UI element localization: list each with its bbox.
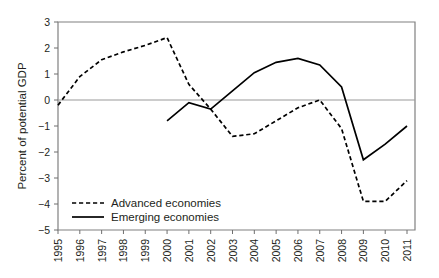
- series-group: [58, 38, 407, 202]
- x-axis-ticks: 1995199619971998199920002001200220032004…: [52, 230, 413, 262]
- y-tick-label: 0: [44, 94, 50, 106]
- x-tick-label: 2010: [379, 239, 391, 263]
- x-tick-label: 2005: [270, 239, 282, 263]
- x-tick-label: 2001: [183, 239, 195, 263]
- x-tick-label: 1999: [139, 239, 151, 263]
- chart-figure: Percent of potential GDP 3210−1−2−3−4−5 …: [0, 0, 439, 278]
- series-line-emerging: [167, 58, 407, 159]
- x-tick-label: 2004: [248, 239, 260, 263]
- x-tick-label: 1998: [117, 239, 129, 263]
- y-axis-title: Percent of potential GDP: [16, 62, 28, 190]
- y-tick-label: −5: [38, 224, 50, 236]
- y-tick-label: −1: [38, 120, 50, 132]
- x-tick-label: 1995: [52, 239, 64, 263]
- series-line-advanced: [58, 38, 407, 202]
- y-tick-label: 1: [44, 68, 50, 80]
- y-tick-label: 3: [44, 16, 50, 28]
- chart-legend: Advanced economies Emerging economies: [72, 197, 221, 223]
- x-tick-label: 2000: [161, 239, 173, 263]
- x-tick-label: 2008: [336, 239, 348, 263]
- y-tick-label: −3: [38, 172, 50, 184]
- x-tick-label: 2003: [227, 239, 239, 263]
- y-axis-ticks: 3210−1−2−3−4−5: [38, 16, 58, 236]
- y-tick-label: 2: [44, 42, 50, 54]
- x-tick-label: 2011: [401, 239, 413, 262]
- y-tick-label: −2: [38, 146, 50, 158]
- x-tick-label: 1997: [96, 239, 108, 263]
- x-tick-label: 2007: [314, 239, 326, 263]
- x-tick-label: 2006: [292, 239, 304, 263]
- y-tick-label: −4: [38, 198, 50, 210]
- x-tick-label: 1996: [74, 239, 86, 263]
- y-axis-title-text: Percent of potential GDP: [16, 62, 28, 190]
- legend-label-emerging: Emerging economies: [111, 211, 219, 223]
- legend-label-advanced: Advanced economies: [111, 197, 221, 209]
- x-tick-label: 2009: [357, 239, 369, 263]
- chart-canvas: Percent of potential GDP 3210−1−2−3−4−5 …: [0, 0, 439, 278]
- x-tick-label: 2002: [205, 239, 217, 263]
